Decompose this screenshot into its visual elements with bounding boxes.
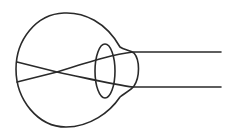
eyeball-outline <box>16 13 139 127</box>
lens <box>95 44 115 98</box>
light-ray-top <box>17 52 221 82</box>
eye-diagram <box>0 0 233 138</box>
